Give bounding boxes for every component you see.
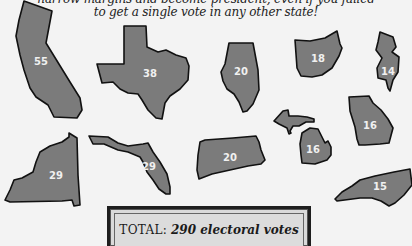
- state-pennsylvania: 20: [197, 136, 265, 179]
- votes-new-jersey: 14: [381, 66, 395, 77]
- total-panel: TOTAL: 290 electoral votes: [114, 213, 304, 246]
- state-north-carolina: 15: [335, 169, 412, 206]
- state-new-york: 29: [5, 133, 80, 206]
- votes-texas: 38: [143, 68, 157, 79]
- state-california: 55: [16, 1, 82, 118]
- votes-california: 55: [34, 56, 48, 67]
- votes-michigan: 16: [306, 144, 320, 155]
- state-illinois: 20: [221, 43, 259, 112]
- total-value: 290 electoral votes: [171, 223, 299, 237]
- state-ohio: 18: [295, 31, 342, 77]
- votes-north-carolina: 15: [373, 181, 387, 192]
- votes-florida: 29: [142, 161, 156, 172]
- votes-pennsylvania: 20: [223, 152, 237, 163]
- state-texas: 38: [97, 26, 189, 119]
- votes-georgia: 16: [363, 120, 377, 131]
- state-georgia: 16: [349, 96, 393, 145]
- votes-ohio: 18: [311, 53, 325, 64]
- state-florida: 29: [89, 136, 170, 194]
- state-michigan: 16: [274, 110, 331, 164]
- votes-new-york: 29: [49, 170, 63, 181]
- state-new-jersey: 14: [376, 32, 399, 91]
- total-box: TOTAL: 290 electoral votes: [107, 206, 311, 246]
- votes-illinois: 20: [234, 66, 248, 77]
- total-label: TOTAL:: [119, 223, 167, 237]
